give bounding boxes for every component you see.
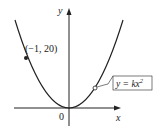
curve-marker (93, 86, 97, 90)
point-label: (−1, 20) (25, 43, 57, 55)
x-axis-label: x (115, 112, 121, 123)
x-axis-arrow-icon (114, 106, 121, 111)
y-axis-arrow-icon (67, 8, 72, 15)
equation-label: y = kx2 (115, 77, 144, 89)
parabola-diagram: y = kx2 (−1, 20) y x 0 (0, 0, 165, 138)
point-marker (24, 56, 28, 60)
origin-label: 0 (59, 111, 64, 122)
y-axis-label: y (57, 5, 63, 16)
label-leader-line (97, 76, 113, 87)
